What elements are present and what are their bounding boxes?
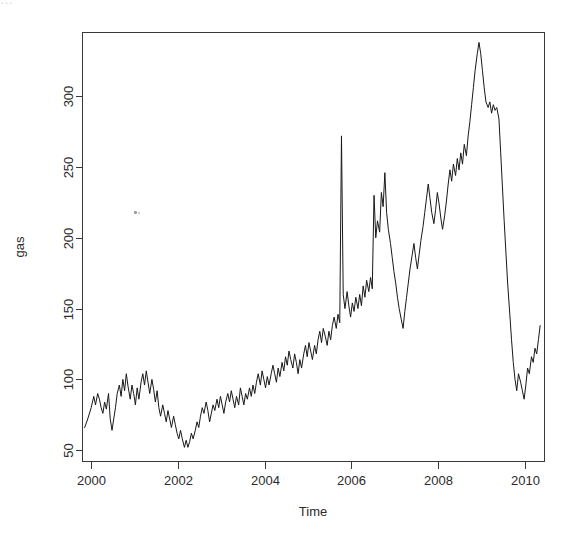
y-axis-tick-marks bbox=[76, 97, 83, 451]
series-group bbox=[85, 42, 540, 447]
x-axis-tick-marks bbox=[92, 462, 526, 469]
scan-speck bbox=[134, 211, 137, 214]
y-tick-label: 300 bbox=[61, 86, 76, 108]
y-tick-label: 100 bbox=[61, 369, 76, 391]
y-axis-title: gas bbox=[12, 236, 27, 257]
x-tick-label: 2010 bbox=[511, 473, 540, 488]
scan-speck bbox=[138, 212, 140, 214]
y-tick-label: 150 bbox=[61, 299, 76, 321]
plot-canvas: 50100150200250300 2000200220042006200820… bbox=[0, 0, 563, 538]
x-tick-label: 2008 bbox=[424, 473, 453, 488]
x-tick-label: 2000 bbox=[77, 473, 106, 488]
x-tick-label: 2006 bbox=[337, 473, 366, 488]
gas-time-series-figure: 50100150200250300 2000200220042006200820… bbox=[0, 0, 563, 538]
y-axis-tick-labels: 50100150200250300 bbox=[61, 86, 76, 458]
x-axis-tick-labels: 200020022004200620082010 bbox=[77, 473, 540, 488]
series-line-gas bbox=[85, 42, 540, 447]
x-tick-label: 2002 bbox=[164, 473, 193, 488]
x-axis-title: Time bbox=[299, 504, 327, 519]
y-tick-label: 250 bbox=[61, 157, 76, 179]
y-tick-label: 50 bbox=[61, 443, 76, 457]
y-tick-label: 200 bbox=[61, 228, 76, 250]
x-tick-label: 2004 bbox=[251, 473, 280, 488]
plot-frame-box bbox=[83, 33, 545, 462]
